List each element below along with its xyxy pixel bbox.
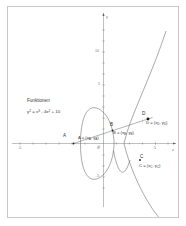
x-tick-label--5: -5 bbox=[18, 147, 21, 151]
point-name-D: D bbox=[142, 112, 145, 117]
x-tick-label-5: 5 bbox=[154, 147, 156, 151]
point-marker-A[interactable] bbox=[73, 143, 75, 145]
y-tick-label-0: 0 bbox=[98, 146, 100, 150]
point-label-A: A = (xA, yA) bbox=[78, 136, 99, 141]
equation-term2: - 4x bbox=[41, 109, 48, 114]
point-label-A-suby: A bbox=[95, 137, 97, 141]
point-label-A-subx: A bbox=[89, 137, 91, 141]
point-label-C-name: C bbox=[139, 163, 142, 168]
equation-term2-exp: 2 bbox=[49, 109, 51, 113]
caption-title: Funktionen bbox=[27, 99, 50, 104]
point-label-B: B = (xB, yB) bbox=[113, 131, 134, 136]
y-tick-label-5: 5 bbox=[98, 83, 100, 87]
caption-equation: y2 = x3 - 4x2 + 10 bbox=[27, 110, 60, 115]
equation-lhs-exp: 2 bbox=[29, 109, 31, 113]
point-label-B-suby: B bbox=[131, 132, 133, 136]
y-axis-arrow bbox=[102, 13, 104, 16]
x-axis-label: x bbox=[172, 148, 174, 152]
point-label-D: D = (xD, yD) bbox=[146, 121, 168, 126]
x-axis-arrow bbox=[173, 142, 176, 144]
point-name-C: C bbox=[140, 155, 143, 160]
equation-equals: = bbox=[32, 109, 35, 114]
point-name-B: B bbox=[110, 123, 113, 128]
y-axis-label: y bbox=[106, 15, 108, 19]
point-label-D-subx: D bbox=[157, 122, 159, 126]
point-label-D-name: D bbox=[146, 120, 149, 125]
y-tick-label-10: 10 bbox=[95, 50, 99, 54]
point-label-C: C = (xC, yC) bbox=[139, 164, 161, 169]
equation-term1-exp: 3 bbox=[38, 109, 40, 113]
curve-lower-bump bbox=[114, 151, 131, 173]
curve-branch-upper bbox=[124, 31, 166, 144]
point-label-A-name: A bbox=[78, 135, 81, 140]
point-label-B-name: B bbox=[113, 130, 116, 135]
y-tick-label--5: -5 bbox=[96, 175, 99, 179]
point-label-C-suby: C bbox=[157, 165, 159, 169]
point-label-D-suby: D bbox=[164, 122, 166, 126]
equation-term3: + 10 bbox=[52, 109, 61, 114]
figure-page: Funktionen y2 = x3 - 4x2 + 10 x y -5 0 5… bbox=[0, 0, 186, 226]
point-label-C-subx: C bbox=[150, 165, 152, 169]
point-label-B-subx: B bbox=[124, 132, 126, 136]
point-name-A: A bbox=[63, 134, 66, 139]
